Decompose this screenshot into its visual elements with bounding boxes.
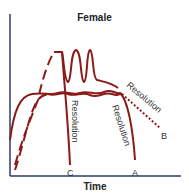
resolution-label-a: Resolution — [110, 104, 133, 148]
x-axis-label: Time — [10, 181, 180, 192]
end-label-c: C — [67, 168, 74, 178]
end-label-b: B — [161, 131, 167, 141]
curve-c-resolution — [62, 52, 70, 165]
resolution-label-b: Resolution — [125, 80, 164, 115]
chart-canvas: Resolution Resolution Resolution C A B — [0, 0, 189, 195]
end-label-a: A — [132, 168, 138, 178]
resolution-label-c: Resolution — [70, 100, 80, 143]
curve-b-plateau — [48, 93, 122, 96]
curve-b-rise — [15, 94, 48, 170]
